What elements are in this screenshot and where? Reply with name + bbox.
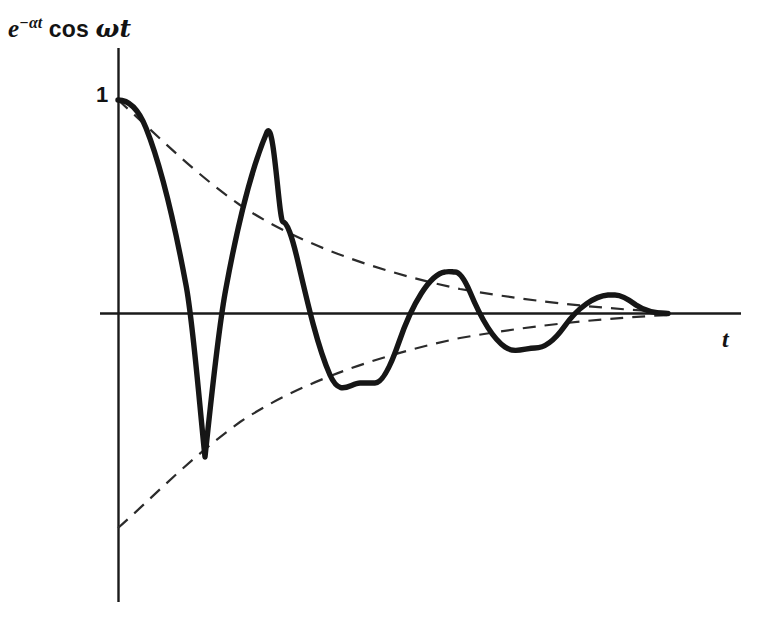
damped-oscillation-figure: e−αt cos ωt 1 t	[0, 0, 776, 633]
damped-cosine-curve	[118, 100, 668, 457]
y-label-exponent: −αt	[19, 14, 42, 31]
y-label-cos: cos	[49, 16, 89, 42]
upper-envelope-dashed	[118, 100, 668, 312]
y-label-omega-t: ωt	[95, 14, 131, 43]
y-label-base: e	[8, 15, 19, 42]
plot-canvas	[0, 0, 776, 633]
x-axis-label: t	[722, 326, 729, 353]
y-axis-label: e−αt cos ωt	[8, 14, 131, 43]
y-tick-label-one: 1	[96, 82, 108, 108]
